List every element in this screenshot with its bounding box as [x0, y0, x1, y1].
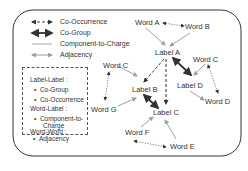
node-word-e: Word E	[170, 142, 195, 151]
node-label-a: Label A	[155, 48, 180, 57]
legend-box: Label-Label : • Co-Group • Co-Occurrence…	[22, 67, 88, 135]
node-word-f: Word F	[125, 128, 149, 137]
legend-bullet-adjacency: • Adjacency	[33, 135, 69, 142]
legend-co-occurrence: Co-Occurrence	[60, 18, 107, 26]
legend-item-co-occurrence: Co-Occurrence	[40, 96, 84, 103]
legend-bullet-co-occurrence: • Co-Occurrence	[34, 96, 84, 103]
node-word-c-left: Word C	[103, 61, 128, 70]
node-word-c-right: Word C	[193, 55, 218, 64]
node-label-c: Label C	[153, 108, 179, 117]
legend-item-adjacency: Adjacency	[39, 135, 69, 142]
legend-component-to-charge: Component-to-Charge	[60, 40, 130, 48]
node-word-g: Word G	[91, 105, 117, 114]
legend-co-group: Co-Group	[60, 29, 91, 37]
legend-group-word-label: Word-Label :	[30, 105, 67, 112]
node-word-a: Word A	[135, 18, 159, 27]
node-label-b: Label B	[132, 85, 157, 94]
legend-bullet-component: • Component-to-	[34, 115, 83, 122]
legend-bullet-co-group: • Co-Group	[34, 86, 68, 93]
node-word-b: Word B	[185, 22, 210, 31]
legend-group-label-label: Label-Label :	[30, 76, 68, 83]
legend-item-component: Component-to-	[40, 115, 83, 122]
legend-group-word-word: Word-Word :	[30, 128, 67, 135]
node-word-d: Word D	[205, 97, 230, 106]
legend-item-co-group: Co-Group	[40, 86, 69, 93]
legend-adjacency: Adjacency	[60, 51, 92, 59]
node-label-d: Label D	[177, 81, 203, 90]
